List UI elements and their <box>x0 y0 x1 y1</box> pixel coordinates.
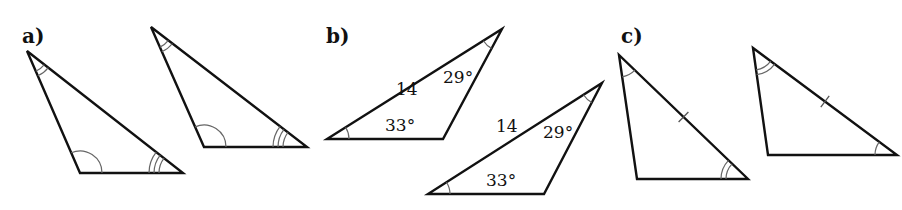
angle-arc-mark <box>159 158 164 173</box>
angle-arc-mark <box>346 127 349 139</box>
triangle-a1 <box>27 51 183 173</box>
part-c: c) <box>619 24 897 179</box>
angle-arc-mark <box>622 70 635 77</box>
angle-arc-mark <box>584 95 592 103</box>
side-length-label: 14 <box>396 79 418 99</box>
angle-arc-mark <box>273 126 280 147</box>
angle-arc-mark <box>875 142 879 155</box>
angle-label-left: 33° <box>486 170 516 190</box>
angle-arc-mark <box>160 40 169 47</box>
angle-arc-mark <box>447 182 451 194</box>
angle-arc-mark <box>283 132 288 147</box>
angle-arc-mark <box>149 152 156 173</box>
angle-arc-mark <box>483 41 491 49</box>
angle-label-top: 29° <box>543 122 573 142</box>
angle-label-left: 33° <box>385 115 415 135</box>
angle-label-top: 29° <box>443 67 473 87</box>
triangle-c1 <box>619 55 748 179</box>
angle-arc-mark <box>726 164 732 179</box>
triangle-b1: 14 29° 33° <box>327 29 502 139</box>
triangle-b2: 14 29° 33° <box>428 83 602 194</box>
part-b: b) 14 29° 33° 14 29° 33° <box>326 24 602 194</box>
equal-side-tick-mark <box>821 96 829 107</box>
part-a-label: a) <box>22 24 44 48</box>
triangle-outline <box>27 51 183 173</box>
part-c-label: c) <box>621 24 643 48</box>
side-length-label: 14 <box>496 116 518 136</box>
angle-arc-mark <box>36 65 45 72</box>
part-a: a) <box>22 24 307 173</box>
triangle-a2 <box>151 27 307 147</box>
triangle-c2 <box>753 48 897 155</box>
part-b-label: b) <box>326 24 349 48</box>
angle-arc-mark <box>756 61 771 70</box>
congruent-triangles-diagram: a) b) 14 29° 33° 14 29° 33° c) <box>0 0 902 210</box>
